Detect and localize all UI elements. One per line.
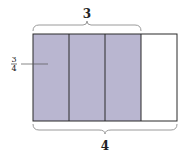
bottom-brace-label: 4 — [101, 139, 109, 153]
shaded-part-2 — [69, 34, 105, 121]
fraction-denominator: 4 — [11, 64, 16, 73]
top-brace — [33, 21, 141, 31]
fraction-numerator: 3 — [11, 55, 16, 64]
unshaded-part-4 — [141, 34, 177, 121]
shaded-part-1 — [33, 34, 69, 121]
bottom-brace — [33, 124, 177, 134]
fraction-diagram: 3 4 3 4 — [0, 0, 186, 157]
shaded-part-3 — [105, 34, 141, 121]
top-brace-label: 3 — [83, 7, 91, 21]
